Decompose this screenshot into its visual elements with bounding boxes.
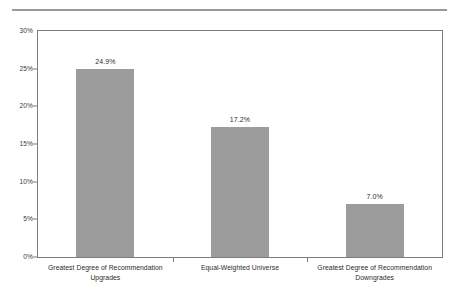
y-tick-label: 15%: [20, 141, 34, 148]
x-tick-mark: [173, 258, 174, 262]
x-axis-category-labels: Greatest Degree of RecommendationUpgrade…: [37, 263, 443, 297]
y-tick-label: 0%: [23, 254, 33, 261]
x-category-label-line: Greatest Degree of Recommendation: [38, 263, 173, 273]
y-tick-mark: [33, 181, 37, 182]
y-tick-label: 25%: [20, 65, 34, 72]
bar-value-label: 7.0%: [366, 193, 382, 200]
x-category-label-line: Downgrades: [307, 273, 442, 283]
y-tick-label: 10%: [20, 178, 34, 185]
y-tick-mark: [33, 219, 37, 220]
y-tick-label: 20%: [20, 103, 34, 110]
x-category-label-line: Greatest Degree of Recommendation: [307, 263, 442, 273]
x-category-label-line: Upgrades: [38, 273, 173, 283]
bar-value-label: 17.2%: [230, 116, 250, 123]
x-category-label: Greatest Degree of RecommendationDowngra…: [307, 263, 442, 283]
bar-value-label: 24.9%: [95, 58, 115, 65]
x-category-label-line: Equal-Weighted Universe: [173, 263, 308, 273]
y-tick-label: 5%: [23, 216, 33, 223]
bar: [76, 69, 134, 257]
bar-chart-figure: 30%25%20%15%10%5%0% Greatest Degree of R…: [0, 0, 460, 300]
y-tick-mark: [33, 144, 37, 145]
x-category-label: Equal-Weighted Universe: [173, 263, 308, 273]
y-axis: 30%25%20%15%10%5%0%: [0, 0, 33, 300]
bar: [211, 127, 269, 257]
y-tick-mark: [33, 106, 37, 107]
x-category-label: Greatest Degree of RecommendationUpgrade…: [38, 263, 173, 283]
x-tick-mark: [307, 258, 308, 262]
y-tick-label: 30%: [20, 28, 34, 35]
y-tick-mark: [33, 257, 37, 258]
y-tick-mark: [33, 68, 37, 69]
bar: [346, 204, 404, 257]
header-divider-rule: [12, 9, 447, 11]
